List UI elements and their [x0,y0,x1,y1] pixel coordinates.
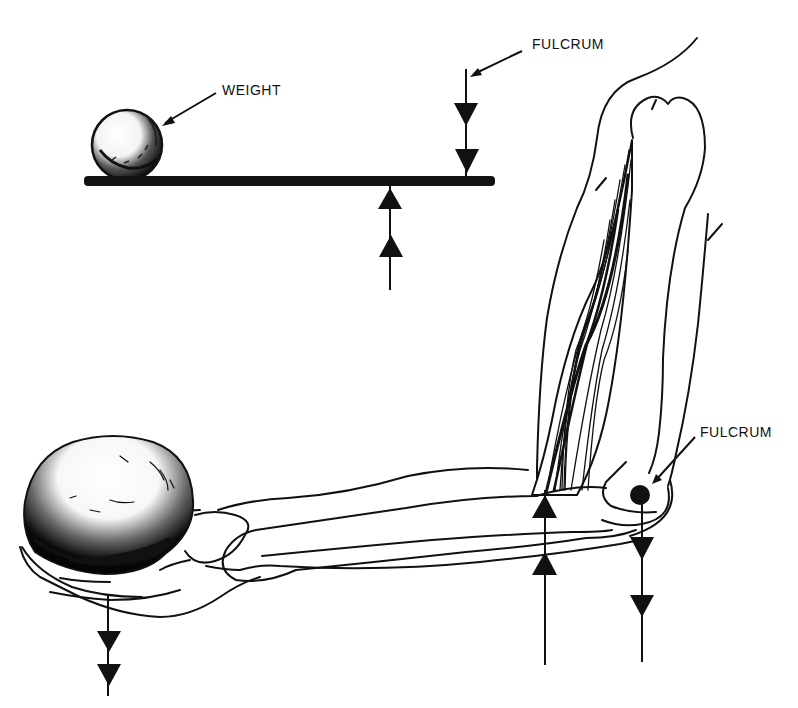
fulcrum-downward-arrows [454,69,479,176]
fulcrum-pointer-arrowhead [470,68,482,77]
elbow-fulcrum-dot [630,485,650,505]
fulcrum-pointer-line [474,51,522,74]
muscle-upward-arrows [532,490,557,665]
weight-label: WEIGHT [222,83,281,97]
weight-ball [92,110,162,180]
lever-diagram [0,0,798,708]
forearm-upper-outline [218,468,528,510]
weight-pointer-line [165,93,216,123]
top-fulcrum-label: FULCRUM [532,37,604,51]
elbow-fulcrum-pointer-line [656,437,695,480]
held-ball [24,436,193,574]
humerus-bone [631,97,705,473]
lever-bar [84,176,495,186]
effort-upward-arrows [378,186,403,290]
elbow-outline [603,462,656,512]
elbow-fulcrum-label: FULCRUM [700,425,772,439]
top-lever [84,51,522,290]
